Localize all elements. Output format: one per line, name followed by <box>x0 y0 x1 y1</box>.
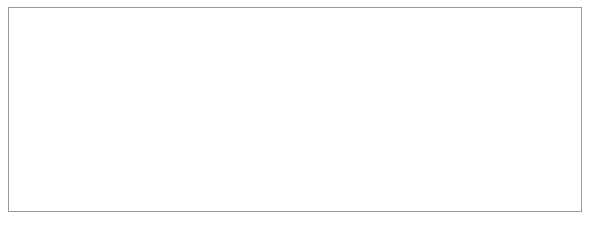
figure-border <box>8 7 582 212</box>
sunspot-chart: 2001601208040 17001020304050607080901800… <box>0 0 591 226</box>
